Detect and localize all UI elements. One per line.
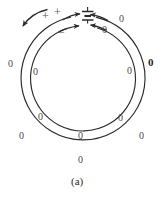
plus-sign-outer: + bbox=[42, 10, 49, 22]
zero-label: 0 bbox=[102, 25, 107, 35]
zero-label: 0 bbox=[139, 131, 144, 141]
zero-label: 0 bbox=[78, 155, 83, 165]
zero-label: 0 bbox=[118, 113, 123, 123]
zero-label: 0 bbox=[78, 131, 83, 141]
zero-label: 0 bbox=[8, 59, 13, 69]
figure-caption: (a) bbox=[71, 176, 83, 187]
plus-sign-inner: + bbox=[54, 6, 61, 18]
zero-label: 0 bbox=[33, 67, 38, 77]
zero-label: 0 bbox=[19, 131, 24, 141]
minus-sign: − bbox=[58, 26, 65, 38]
figure-a-circuit-ring: + + − 0 0 0 0 0 0 0 0 0 0 0 0 (a) bbox=[0, 0, 163, 207]
zero-label: 0 bbox=[38, 112, 43, 122]
lead-outer-left-to-battery bbox=[63, 14, 81, 20]
zero-label: 0 bbox=[119, 14, 124, 24]
zero-label: 0 bbox=[127, 66, 132, 76]
zero-label-bold: 0 bbox=[148, 57, 154, 68]
